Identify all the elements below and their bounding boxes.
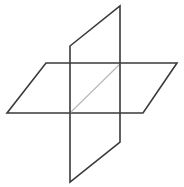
figure-svg [0, 0, 184, 187]
geometric-figure-canvas [0, 0, 184, 187]
